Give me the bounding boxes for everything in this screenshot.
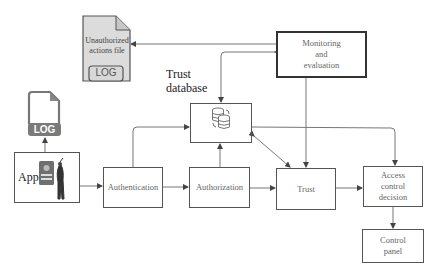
monitoring-line1: Monitoring <box>302 38 341 49</box>
trust-label: Trust <box>297 184 315 195</box>
access-control-decision-box: Access control decision <box>363 166 423 207</box>
app-label: App <box>18 170 39 185</box>
unauthorized-file-label: Unauthorized actions file <box>80 36 134 56</box>
authentication-label: Authentication <box>108 182 159 193</box>
control-panel-line1: Control <box>380 235 406 246</box>
diagram-canvas: Unauthorized actions file LOG LOG Monito… <box>0 0 441 274</box>
unauthorized-file-label-line2: actions file <box>80 46 134 56</box>
unauthorized-file-log-badge: LOG <box>89 67 123 78</box>
access-control-line3: decision <box>379 192 407 203</box>
trust-database-label: Trust database <box>166 67 207 95</box>
log-icon-badge: LOG <box>28 123 61 136</box>
access-control-line2: control <box>379 181 407 192</box>
trust-database-label-line2: database <box>166 81 207 95</box>
edge-authentication-trustdb <box>133 127 189 167</box>
access-control-line1: Access <box>379 170 407 181</box>
trust-box: Trust <box>276 168 336 210</box>
trust-database-label-line1: Trust <box>166 67 207 81</box>
edge-monitoring-trustdb <box>221 52 275 102</box>
monitoring-line3: evaluation <box>302 60 341 71</box>
control-panel-box: Control panel <box>362 229 424 263</box>
edge-trustdb-accesscontrol <box>252 127 395 165</box>
trust-database-box <box>190 103 252 143</box>
authorization-label: Authorization <box>196 182 243 193</box>
authentication-box: Authentication <box>103 167 163 208</box>
monitoring-line2: and <box>302 49 341 60</box>
unauthorized-file-label-line1: Unauthorized <box>80 36 134 46</box>
authorization-box: Authorization <box>189 167 250 208</box>
monitoring-evaluation-box: Monitoring and evaluation <box>276 31 367 78</box>
control-panel-line2: panel <box>380 246 406 257</box>
edge-trustdb-trust <box>254 136 290 167</box>
